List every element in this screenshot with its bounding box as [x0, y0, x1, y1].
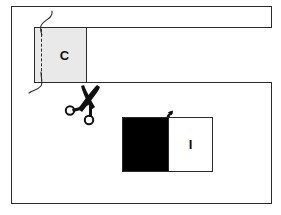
- piece-light-square: I: [168, 118, 212, 171]
- piece-dark-square: [123, 118, 168, 171]
- figure-root: C: [0, 0, 281, 215]
- stitch-line-dashed: [41, 29, 42, 81]
- piece-light-label: I: [189, 137, 193, 152]
- patch-c-label: C: [35, 28, 86, 82]
- pieced-unit: I: [122, 117, 213, 172]
